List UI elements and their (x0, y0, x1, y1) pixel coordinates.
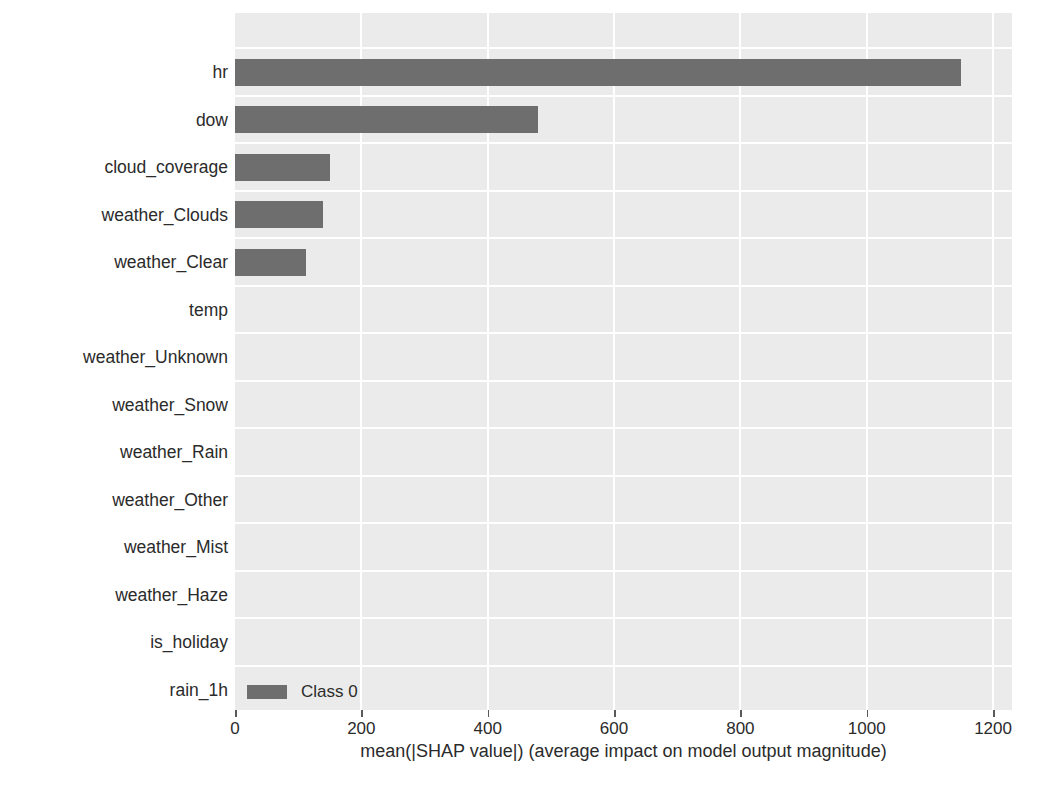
y-tick-label-hr: hr (6, 62, 228, 83)
x-tick-label-1000: 1000 (848, 719, 886, 739)
vertical-gridline-1000 (866, 13, 868, 710)
shap-summary-bar-chart-figure: hrdowcloud_coverageweather_Cloudsweather… (0, 0, 1049, 799)
y-tick-label-cloud_coverage: cloud_coverage (6, 157, 228, 178)
x-tick-label-200: 200 (347, 719, 375, 739)
y-tick-label-weather_Other: weather_Other (6, 489, 228, 510)
legend-label-class-0: Class 0 (301, 682, 358, 702)
horizontal-gridline-7 (235, 380, 1012, 382)
x-tick-mark-800 (740, 710, 742, 717)
y-tick-label-weather_Unknown: weather_Unknown (6, 347, 228, 368)
y-tick-label-weather_Snow: weather_Snow (6, 394, 228, 415)
horizontal-gridline-9 (235, 475, 1012, 477)
horizontal-gridline-11 (235, 570, 1012, 572)
horizontal-gridline-8 (235, 427, 1012, 429)
x-tick-label-400: 400 (473, 719, 501, 739)
y-tick-label-is_holiday: is_holiday (6, 632, 228, 653)
horizontal-gridline-13 (235, 665, 1012, 667)
x-tick-label-600: 600 (600, 719, 628, 739)
vertical-gridline-600 (613, 13, 615, 710)
horizontal-gridline-10 (235, 522, 1012, 524)
legend: Class 0 (247, 682, 358, 702)
x-tick-label-800: 800 (726, 719, 754, 739)
horizontal-gridline-5 (235, 285, 1012, 287)
vertical-gridline-1200 (992, 13, 994, 710)
bar-weather_Clear (235, 249, 306, 276)
horizontal-gridline-0 (235, 47, 1012, 49)
x-tick-label-0: 0 (230, 719, 239, 739)
y-tick-label-weather_Haze: weather_Haze (6, 584, 228, 605)
x-tick-mark-600 (614, 710, 616, 717)
y-tick-label-weather_Clear: weather_Clear (6, 252, 228, 273)
plot-panel: Class 0 (235, 13, 1012, 710)
vertical-gridline-800 (739, 13, 741, 710)
x-tick-mark-1000 (867, 710, 869, 717)
horizontal-gridline-12 (235, 617, 1012, 619)
y-axis-tick-labels: hrdowcloud_coverageweather_Cloudsweather… (0, 13, 228, 710)
horizontal-gridline-4 (235, 237, 1012, 239)
x-tick-mark-400 (488, 710, 490, 717)
y-tick-label-weather_Rain: weather_Rain (6, 442, 228, 463)
y-tick-label-rain_1h: rain_1h (6, 679, 228, 700)
legend-swatch-class-0 (247, 685, 287, 699)
horizontal-gridline-3 (235, 190, 1012, 192)
bar-weather_Clouds (235, 201, 323, 228)
bar-hr (235, 59, 961, 86)
horizontal-gridline-6 (235, 332, 1012, 334)
x-axis-title: mean(|SHAP value|) (average impact on mo… (235, 741, 1012, 762)
x-tick-mark-1200 (993, 710, 995, 717)
horizontal-gridline-2 (235, 142, 1012, 144)
bar-cloud_coverage (235, 154, 330, 181)
x-tick-mark-200 (361, 710, 363, 717)
y-tick-label-weather_Mist: weather_Mist (6, 537, 228, 558)
bar-dow (235, 106, 538, 133)
x-tick-label-1200: 1200 (974, 719, 1012, 739)
x-tick-mark-0 (235, 710, 237, 717)
horizontal-gridline-1 (235, 95, 1012, 97)
y-tick-label-weather_Clouds: weather_Clouds (6, 204, 228, 225)
y-tick-label-temp: temp (6, 299, 228, 320)
y-tick-label-dow: dow (6, 109, 228, 130)
